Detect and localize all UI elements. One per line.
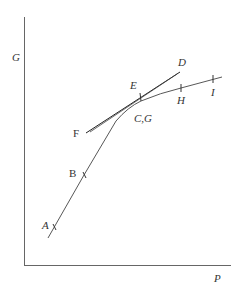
label-cg: C,G	[134, 112, 152, 124]
label-h: H	[176, 94, 186, 106]
label-a: A	[41, 219, 49, 231]
label-e: E	[129, 79, 137, 91]
label-f: F	[73, 127, 79, 139]
label-d: D	[177, 56, 186, 68]
label-i: I	[210, 86, 216, 98]
y-axis-label: G	[12, 51, 20, 63]
label-b: B	[69, 167, 76, 179]
diagram-canvas: G P A B F E C,G D H I	[0, 0, 244, 296]
x-axis-label: P	[213, 272, 221, 284]
tick-e	[140, 93, 141, 101]
